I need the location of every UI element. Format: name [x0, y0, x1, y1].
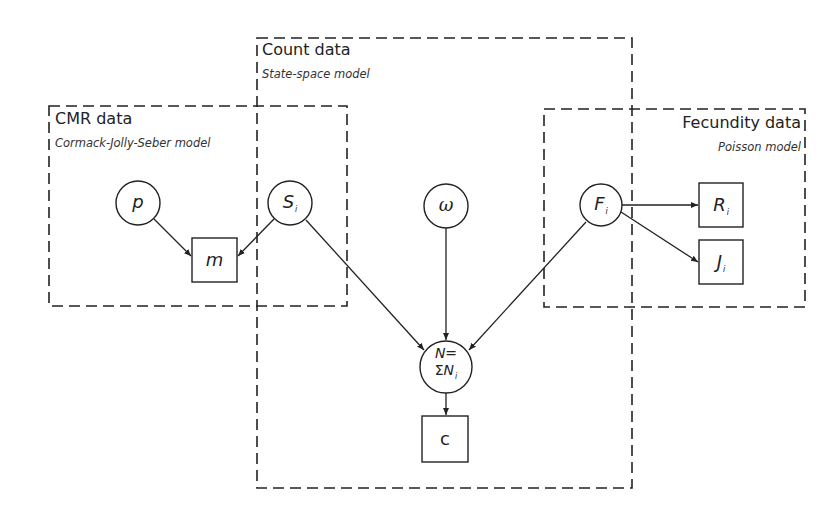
F-symbol: F	[594, 193, 604, 214]
node-J-label: Ji	[699, 251, 743, 274]
node-p-label: p	[116, 191, 160, 212]
S-subscript: i	[295, 205, 297, 214]
J-subscript: i	[723, 265, 725, 274]
edge-F-N	[469, 222, 586, 350]
S-symbol: S	[283, 191, 294, 212]
count-data-subtitle: State-space model	[262, 67, 370, 81]
node-S-label: Si	[268, 191, 312, 214]
fecundity-data-subtitle: Poisson model	[718, 140, 801, 154]
R-symbol: R	[713, 194, 726, 215]
edge-p-m	[154, 219, 191, 256]
sigma-symbol: Σ	[435, 362, 444, 378]
node-F-label: Fi	[579, 193, 623, 216]
fecundity-data-title: Fecundity data	[682, 113, 801, 132]
edge-S-N	[306, 220, 424, 350]
node-m-label: m	[192, 249, 237, 270]
p-symbol: p	[132, 191, 143, 212]
N-symbol: N	[444, 362, 454, 378]
cmr-data-title: CMR data	[55, 109, 132, 128]
cmr-data-subtitle: Cormack-Jolly-Seber model	[55, 136, 210, 150]
J-symbol: J	[717, 251, 722, 272]
sum-N-line: ΣNi	[420, 362, 472, 385]
m-symbol: m	[206, 249, 224, 270]
N-subscript: i	[455, 372, 457, 381]
edge-S-m	[238, 219, 274, 256]
c-symbol: c	[440, 428, 450, 449]
omega-symbol: ω	[439, 194, 454, 215]
N-equals: N=	[420, 345, 472, 362]
edge-F-J	[621, 212, 698, 262]
count-data-title: Count data	[262, 40, 351, 59]
node-N-label: N= ΣNi	[420, 345, 472, 385]
node-c-label: c	[422, 428, 468, 449]
node-R-label: Ri	[699, 194, 743, 217]
F-subscript: i	[606, 207, 608, 216]
node-omega-label: ω	[424, 194, 468, 215]
R-subscript: i	[727, 208, 729, 217]
diagram-canvas: Count data State-space model CMR data Co…	[0, 0, 838, 511]
